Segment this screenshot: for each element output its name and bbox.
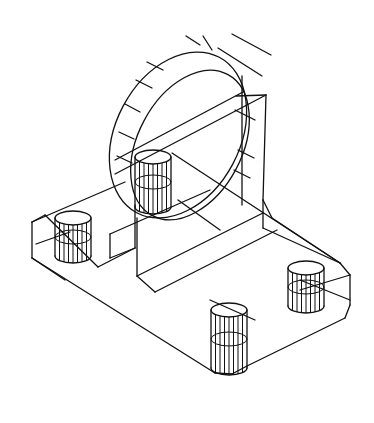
edge-line	[232, 366, 247, 374]
circular-boss	[82, 28, 274, 242]
edge-line	[345, 305, 350, 318]
mounting-holes	[55, 150, 324, 375]
edge-line	[263, 95, 266, 200]
edge-line	[340, 263, 350, 275]
edge-line	[110, 248, 135, 258]
cad-drawing	[0, 0, 374, 423]
edge-line	[115, 92, 243, 160]
edge-line	[235, 110, 255, 120]
edge-line	[232, 34, 271, 55]
boss-face-ellipse	[82, 28, 274, 242]
boss-segment	[125, 104, 140, 112]
boss-segment	[238, 150, 254, 158]
boss-segment	[186, 36, 200, 45]
edge-line	[263, 228, 340, 263]
edge-line	[32, 215, 45, 222]
boss-segment	[119, 132, 134, 139]
edge-line	[236, 95, 266, 96]
edge-line	[155, 230, 277, 292]
edge-line	[247, 318, 345, 366]
edge-line	[178, 200, 220, 230]
edge-line	[137, 276, 155, 292]
boss-segment	[203, 36, 212, 50]
boss-segment	[117, 156, 132, 163]
isometric-bracket-wireframe	[0, 0, 374, 423]
edge-line	[137, 213, 263, 276]
edge-line	[218, 48, 262, 76]
edge-lines	[32, 34, 350, 374]
boss-face-ellipse	[107, 50, 274, 240]
